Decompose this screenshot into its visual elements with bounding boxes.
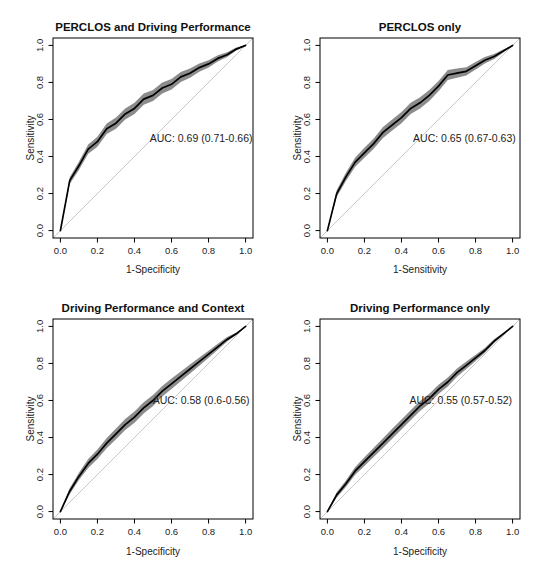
x-tick-label: 0.2 (358, 526, 371, 537)
chance-diagonal (320, 319, 520, 519)
y-tick-label: 0.6 (301, 394, 312, 407)
x-tick-label: 0.0 (54, 526, 67, 537)
y-tick-label: 0.0 (301, 224, 312, 237)
roc-plot: 0.00.00.20.20.40.40.60.60.80.81.01.0AUC:… (0, 0, 267, 281)
y-tick-label: 1.0 (301, 39, 312, 52)
roc-plot: 0.00.00.20.20.40.40.60.60.80.81.01.0AUC:… (267, 281, 535, 563)
y-tick-label: 0.6 (34, 113, 45, 126)
y-tick-label: 0.8 (301, 357, 312, 370)
y-tick-label: 0.2 (34, 187, 45, 200)
y-tick-label: 0.8 (34, 357, 45, 370)
y-tick-label: 0.8 (34, 76, 45, 89)
x-tick-label: 0.8 (202, 245, 215, 256)
y-tick-label: 0.4 (34, 150, 45, 163)
y-axis-label: Sensitivity (292, 396, 303, 441)
x-tick-label: 1.0 (239, 526, 252, 537)
x-tick-label: 0.6 (432, 526, 445, 537)
x-tick-label: 0.2 (91, 245, 104, 256)
roc-panel-perclos-only: PERCLOS only 0.00.00.20.20.40.40.60.60.8… (267, 0, 535, 281)
y-tick-label: 0.2 (301, 187, 312, 200)
x-tick-label: 0.8 (469, 526, 482, 537)
roc-figure: PERCLOS and Driving Performance 0.00.00.… (0, 0, 535, 563)
chance-diagonal (53, 319, 253, 519)
y-tick-label: 0.8 (301, 76, 312, 89)
x-tick-label: 1.0 (239, 245, 252, 256)
x-axis-label: 1-Specificity (53, 264, 253, 275)
roc-plot: 0.00.00.20.20.40.40.60.60.80.81.01.0AUC:… (267, 0, 535, 281)
y-tick-label: 0.2 (301, 468, 312, 481)
y-tick-label: 1.0 (301, 320, 312, 333)
x-tick-label: 1.0 (506, 526, 519, 537)
x-tick-label: 0.6 (432, 245, 445, 256)
y-tick-label: 0.0 (301, 505, 312, 518)
auc-annotation: AUC: 0.65 (0.67-0.63) (413, 132, 516, 144)
y-tick-label: 0.0 (34, 505, 45, 518)
y-tick-label: 0.2 (34, 468, 45, 481)
x-tick-label: 0.4 (128, 526, 141, 537)
x-tick-label: 0.0 (321, 526, 334, 537)
y-tick-label: 0.4 (301, 431, 312, 444)
y-axis-label: Sensitivity (292, 115, 303, 160)
y-axis-label: Sensitivity (25, 115, 36, 160)
x-tick-label: 1.0 (506, 245, 519, 256)
x-tick-label: 0.8 (202, 526, 215, 537)
y-tick-label: 0.4 (301, 150, 312, 163)
auc-annotation: AUC: 0.69 (0.71-0.66) (150, 132, 253, 144)
x-axis-label: 1-Specificity (320, 546, 520, 557)
y-tick-label: 0.6 (34, 394, 45, 407)
y-axis-label: Sensitivity (25, 396, 36, 441)
y-tick-label: 0.0 (34, 224, 45, 237)
x-tick-label: 0.6 (165, 245, 178, 256)
auc-annotation: AUC: 0.58 (0.6-0.56) (153, 394, 250, 406)
x-tick-label: 0.2 (358, 245, 371, 256)
x-tick-label: 0.8 (469, 245, 482, 256)
x-tick-label: 0.2 (91, 526, 104, 537)
y-tick-label: 0.6 (301, 113, 312, 126)
x-axis-label: 1-Specificity (53, 546, 253, 557)
x-tick-label: 0.4 (395, 526, 408, 537)
y-tick-label: 0.4 (34, 431, 45, 444)
x-tick-label: 0.4 (128, 245, 141, 256)
x-tick-label: 0.6 (165, 526, 178, 537)
x-tick-label: 0.0 (321, 245, 334, 256)
roc-panel-driving-performance-only: Driving Performance only 0.00.00.20.20.4… (267, 281, 535, 563)
y-tick-label: 1.0 (34, 39, 45, 52)
x-tick-label: 0.0 (54, 245, 67, 256)
roc-panel-perclos-and-driving-performance: PERCLOS and Driving Performance 0.00.00.… (0, 0, 267, 281)
roc-plot: 0.00.00.20.20.40.40.60.60.80.81.01.0AUC:… (0, 281, 267, 563)
x-tick-label: 0.4 (395, 245, 408, 256)
roc-panel-driving-performance-and-context: Driving Performance and Context 0.00.00.… (0, 281, 267, 563)
y-tick-label: 1.0 (34, 320, 45, 333)
x-axis-label: 1-Sensitivity (320, 264, 520, 275)
auc-annotation: AUC: 0.55 (0.57-0.52) (409, 394, 512, 406)
